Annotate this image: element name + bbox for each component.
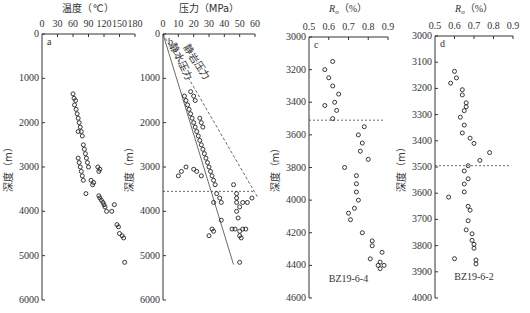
data-point: [204, 156, 208, 160]
data-point: [466, 177, 470, 181]
data-point: [354, 182, 358, 186]
y-tick-label: 3400: [412, 135, 432, 146]
data-point: [250, 196, 254, 200]
y-tick-label: 4600: [286, 292, 306, 303]
data-point: [333, 100, 337, 104]
data-point: [215, 192, 219, 196]
data-point: [212, 178, 216, 182]
data-point: [352, 206, 356, 210]
data-point: [335, 108, 339, 112]
data-point: [460, 131, 464, 135]
data-point: [462, 169, 466, 173]
data-point: [199, 174, 203, 178]
x-tick-label: 0.9: [507, 20, 520, 31]
data-point: [327, 76, 331, 80]
data-point: [207, 165, 211, 169]
data-point: [331, 84, 335, 88]
data-point: [453, 69, 457, 73]
x-tick-label: 10: [173, 18, 183, 29]
y-tick-label: 3500: [412, 161, 432, 172]
data-point: [75, 112, 79, 116]
data-point: [81, 143, 85, 147]
panel-letter: c: [314, 39, 319, 50]
data-point: [219, 200, 223, 204]
data-point: [210, 174, 214, 178]
data-point: [193, 99, 197, 103]
data-point: [323, 104, 327, 108]
data-point: [71, 92, 75, 96]
data-point: [464, 105, 468, 109]
y-tick-label: 5000: [140, 250, 160, 261]
data-point: [196, 134, 200, 138]
data-point: [87, 165, 91, 169]
y-tick-label: 2000: [19, 117, 39, 128]
data-point: [74, 107, 78, 111]
data-point: [460, 88, 464, 92]
y-axis-label: 深度（m）: [269, 143, 281, 193]
y-tick-label: 3000: [412, 30, 432, 41]
data-point: [360, 141, 364, 145]
y-tick-label: 4000: [140, 205, 160, 216]
data-point: [187, 107, 191, 111]
data-point: [84, 192, 88, 196]
data-point: [464, 101, 468, 105]
y-tick-label: 3000: [286, 31, 306, 42]
data-point: [112, 203, 116, 207]
data-point: [184, 99, 188, 103]
y-tick-label: 3600: [412, 187, 432, 198]
data-point: [212, 200, 216, 204]
x-tick-label: 0.8: [487, 20, 500, 31]
data-point: [453, 257, 457, 261]
x-tick-label: 0.7: [468, 20, 481, 31]
data-point: [235, 200, 239, 204]
data-point: [201, 147, 205, 151]
y-tick-label: 4000: [412, 292, 432, 303]
data-point: [466, 204, 470, 208]
data-point: [80, 134, 84, 138]
data-point: [360, 231, 364, 235]
y-tick-label: 4400: [286, 259, 306, 270]
data-point: [472, 246, 476, 250]
y-axis-label: 深度（m）: [2, 142, 14, 192]
data-point: [347, 211, 351, 215]
y-tick-label: 4000: [19, 205, 39, 216]
data-point: [449, 81, 453, 85]
data-point: [245, 200, 249, 204]
data-point: [460, 93, 464, 97]
y-tick-label: 4000: [286, 194, 306, 205]
data-point: [474, 262, 478, 266]
x-tick-label: 30: [204, 18, 214, 29]
data-point: [198, 138, 202, 142]
x-tick-label: 150: [112, 18, 127, 29]
data-point: [123, 260, 127, 264]
data-point: [468, 136, 472, 140]
data-point: [356, 133, 360, 137]
axis-title: Ro（%）: [328, 3, 367, 16]
data-point: [462, 182, 466, 186]
y-tick-label: 0: [34, 28, 39, 39]
axis-title: Ro（%）: [454, 3, 493, 16]
y-axis-label: 深度（m）: [395, 142, 407, 192]
axis-title: 压力（MPa）: [179, 2, 239, 14]
data-point: [190, 116, 194, 120]
x-tick-label: 0.9: [382, 21, 395, 32]
data-point: [378, 267, 382, 271]
data-point: [358, 149, 362, 153]
y-tick-label: 6000: [140, 294, 160, 305]
y-tick-label: 3300: [412, 109, 432, 120]
y-axis-label: 深度（m）: [123, 142, 135, 192]
y-tick-label: 3100: [412, 56, 432, 67]
data-point: [238, 205, 242, 209]
data-point: [323, 68, 327, 72]
data-point: [337, 92, 341, 96]
data-point: [478, 158, 482, 162]
y-tick-label: 4200: [286, 227, 306, 238]
data-point: [238, 260, 242, 264]
y-tick-label: 3000: [140, 161, 160, 172]
data-point: [235, 209, 239, 213]
x-tick-label: 0.6: [448, 20, 461, 31]
data-point: [232, 183, 236, 187]
data-point: [83, 152, 87, 156]
data-point: [205, 161, 209, 165]
data-point: [462, 109, 466, 113]
